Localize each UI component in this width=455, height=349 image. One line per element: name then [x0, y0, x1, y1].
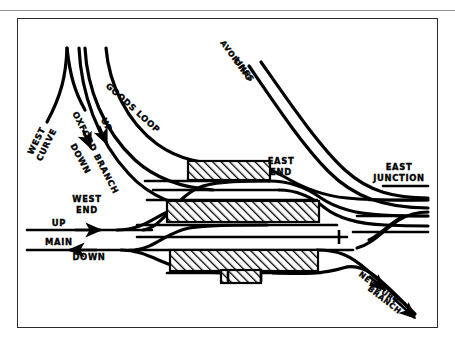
track-east-junction-crossover-b [369, 216, 403, 240]
platform-upper [188, 161, 270, 180]
label-down-main: DOWN [72, 252, 105, 262]
platform-lower [170, 250, 318, 271]
label-up-main: UP [52, 218, 66, 228]
platform-middle [167, 201, 319, 222]
railway-track-diagram: WEST CURVE OXFORD BRANCH UP DOWN GOODS L… [17, 18, 438, 328]
label-east-end-line1: EAST [268, 156, 295, 166]
platforms-group [167, 161, 319, 283]
track-west-curve-left [47, 48, 67, 122]
label-east-junction-line2: JUNCTION [372, 173, 425, 183]
label-main: MAIN [45, 237, 73, 247]
label-west-end-line2: END [76, 205, 98, 215]
label-east-end-line2: END [270, 167, 292, 177]
label-east-junction-line1: EAST [386, 162, 413, 172]
label-west-end-line1: WEST [72, 194, 102, 204]
diagram-page: WEST CURVE OXFORD BRANCH UP DOWN GOODS L… [0, 0, 455, 349]
top-horizontal-rule [0, 10, 455, 11]
